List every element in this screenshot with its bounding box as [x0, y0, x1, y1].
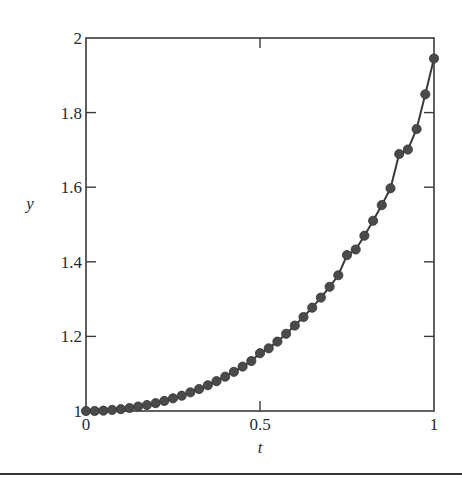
data-point-marker	[247, 356, 256, 365]
data-series	[81, 54, 438, 416]
y-tick-label: 2	[74, 29, 83, 48]
data-point-marker	[125, 403, 134, 412]
data-point-marker	[134, 402, 143, 411]
data-point-marker	[160, 396, 169, 405]
data-point-marker	[351, 245, 360, 254]
x-tick-label: 0	[82, 415, 91, 434]
tick-labels: 11.21.41.61.8200.51	[61, 29, 439, 434]
data-point-marker	[316, 293, 325, 302]
data-point-marker	[177, 391, 186, 400]
data-point-marker	[342, 250, 351, 259]
horizontal-rule	[0, 473, 462, 475]
data-point-marker	[90, 406, 99, 415]
data-point-marker	[308, 303, 317, 312]
y-tick-label: 1.8	[61, 104, 82, 123]
data-point-marker	[429, 54, 438, 63]
data-point-marker	[142, 400, 151, 409]
data-point-marker	[290, 321, 299, 330]
y-axis-label: y	[24, 194, 34, 213]
data-point-marker	[360, 231, 369, 240]
data-point-marker	[255, 349, 264, 358]
data-point-marker	[186, 388, 195, 397]
y-tick-label: 1.4	[61, 253, 83, 272]
data-point-marker	[151, 399, 160, 408]
y-tick-label: 1.2	[61, 327, 82, 346]
data-point-marker	[282, 329, 291, 338]
data-point-marker	[195, 384, 204, 393]
data-point-marker	[238, 362, 247, 371]
data-point-marker	[108, 405, 117, 414]
x-axis-label: t	[258, 438, 264, 457]
data-point-marker	[203, 381, 212, 390]
x-tick-label: 0.5	[249, 415, 270, 434]
data-point-marker	[221, 372, 230, 381]
data-point-marker	[334, 271, 343, 280]
data-point-marker	[299, 312, 308, 321]
x-tick-label: 1	[430, 415, 439, 434]
chart: 11.21.41.61.8200.51 t y	[0, 0, 462, 485]
data-point-marker	[386, 184, 395, 193]
data-point-marker	[395, 149, 404, 158]
data-point-marker	[369, 216, 378, 225]
data-point-marker	[264, 344, 273, 353]
data-point-marker	[421, 90, 430, 99]
data-point-marker	[412, 124, 421, 133]
data-point-marker	[116, 405, 125, 414]
data-point-marker	[229, 367, 238, 376]
data-point-marker	[377, 201, 386, 210]
data-point-marker	[325, 282, 334, 291]
data-point-marker	[273, 337, 282, 346]
data-point-marker	[99, 406, 108, 415]
data-point-marker	[168, 394, 177, 403]
y-tick-label: 1	[74, 402, 83, 421]
data-point-marker	[81, 406, 90, 415]
data-point-marker	[403, 145, 412, 154]
y-tick-label: 1.6	[61, 178, 82, 197]
data-point-marker	[212, 377, 221, 386]
